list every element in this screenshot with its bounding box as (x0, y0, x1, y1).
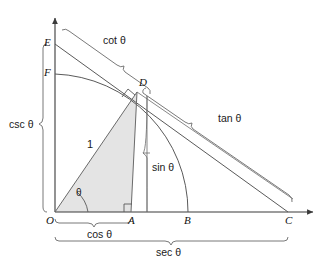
cosine-brace (55, 219, 131, 227)
cosine-label: cos θ (87, 229, 112, 240)
point-label-E: E (44, 37, 51, 48)
angle-theta-label: θ (76, 188, 82, 198)
cotangent-label: cot θ (103, 35, 126, 46)
secant-helper-line-DC (137, 92, 293, 199)
point-label-A: A (128, 215, 135, 226)
point-label-D: D (139, 77, 147, 88)
point-label-C: C (285, 215, 292, 226)
secant-label: sec θ (156, 247, 181, 258)
trigonometry-diagram: O A B C D E F cot θ tan θ sin θ cos θ se… (0, 0, 321, 266)
point-label-F: F (44, 67, 51, 78)
point-label-O: O (46, 215, 54, 226)
radius-length-label: 1 (87, 139, 93, 150)
sine-label: sin θ (152, 162, 174, 173)
sine-measure-brace (143, 96, 150, 158)
point-label-B: B (184, 215, 191, 226)
tangent-label: tan θ (218, 113, 241, 124)
tangent-brace (143, 88, 292, 202)
cosecant-label: csc θ (9, 119, 34, 130)
